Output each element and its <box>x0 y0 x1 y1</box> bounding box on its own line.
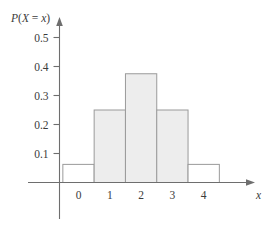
x-tick-label: 1 <box>107 189 113 201</box>
x-tick-label: 3 <box>170 189 176 201</box>
x-tick-label: 2 <box>138 189 144 201</box>
bar <box>63 164 94 182</box>
bar <box>188 164 219 182</box>
y-tick-label: 0.4 <box>34 61 49 73</box>
y-tick-label: 0.2 <box>34 119 49 131</box>
x-tick-label: 4 <box>201 189 207 201</box>
probability-distribution-figure: 0.10.20.30.40.5 01234 P(X = x) x <box>0 0 275 227</box>
bar-series <box>63 74 220 183</box>
y-axis-ticks: 0.10.20.30.40.5 <box>34 32 59 160</box>
x-axis-title: x <box>255 189 262 201</box>
x-axis-arrow-icon <box>246 179 255 186</box>
bar <box>157 110 188 183</box>
y-axis-title: P(X = x) <box>10 12 50 25</box>
y-tick-label: 0.5 <box>34 32 49 44</box>
x-tick-label: 0 <box>76 189 82 201</box>
x-axis-ticks: 01234 <box>76 189 207 201</box>
y-tick-label: 0.1 <box>34 148 49 160</box>
y-tick-label: 0.3 <box>34 90 49 102</box>
chart-canvas: 0.10.20.30.40.5 01234 P(X = x) x <box>0 0 275 227</box>
y-axis-arrow-icon <box>56 17 63 26</box>
bar <box>125 74 156 183</box>
bar <box>94 110 125 183</box>
